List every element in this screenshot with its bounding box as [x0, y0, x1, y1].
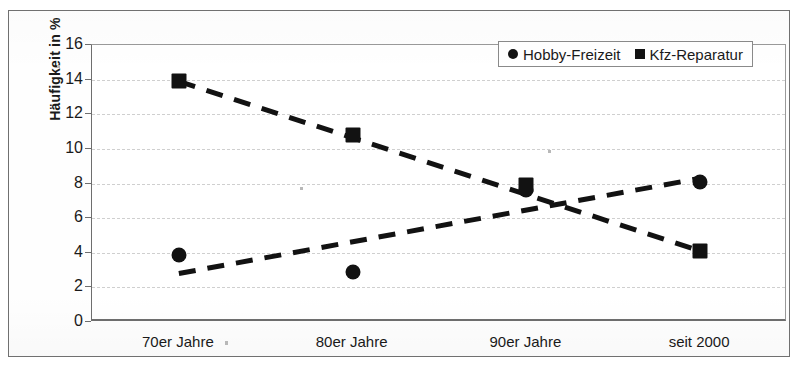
- y-tick-label: 10: [43, 140, 83, 156]
- y-tick-label: 6: [43, 209, 83, 225]
- x-tick-label: seit 2000: [669, 333, 730, 350]
- data-point-marker: [693, 244, 708, 259]
- y-tick-label: 2: [43, 278, 83, 294]
- x-tick-label: 70er Jahre: [142, 333, 214, 350]
- data-point-marker: [345, 128, 360, 143]
- y-tick-label: 0: [43, 313, 83, 329]
- x-tick-label: 90er Jahre: [490, 333, 562, 350]
- legend-label: Hobby-Freizeit: [523, 46, 621, 63]
- figure-frame: Häufigkeit in % 1614121086420 70er Jahre…: [8, 10, 790, 357]
- data-point-marker: [519, 178, 534, 193]
- y-tick-label: 12: [43, 105, 83, 121]
- y-tick-label: 14: [43, 71, 83, 87]
- y-axis-ticks: 1614121086420: [9, 44, 91, 321]
- data-point-marker: [693, 174, 708, 189]
- legend-label: Kfz-Reparatur: [650, 46, 743, 63]
- circle-marker-icon: [508, 49, 518, 59]
- chart-legend: Hobby-Freizeit Kfz-Reparatur: [498, 41, 753, 67]
- series-lines: [92, 45, 787, 322]
- data-point-marker: [171, 74, 186, 89]
- plot-area: [91, 44, 786, 321]
- data-point-marker: [345, 264, 360, 279]
- y-tick-label: 8: [43, 175, 83, 191]
- square-marker-icon: [635, 49, 645, 59]
- x-tick-label: 80er Jahre: [316, 333, 388, 350]
- y-tick-label: 16: [43, 36, 83, 52]
- data-point-marker: [171, 248, 186, 263]
- legend-entry-hobby-freizeit: Hobby-Freizeit: [508, 46, 621, 63]
- x-axis-ticks: 70er Jahre80er Jahre90er Jahreseit 2000: [91, 327, 786, 361]
- legend-entry-kfz-reparatur: Kfz-Reparatur: [635, 46, 743, 63]
- y-tick-label: 4: [43, 244, 83, 260]
- y-tick-mark: [85, 321, 91, 322]
